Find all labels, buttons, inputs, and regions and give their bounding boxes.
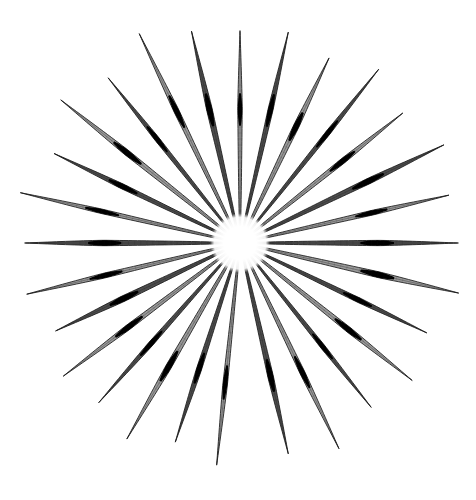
needle-starburst-canvas [0, 0, 476, 500]
background [0, 0, 476, 500]
needle-starburst-image [0, 0, 476, 500]
